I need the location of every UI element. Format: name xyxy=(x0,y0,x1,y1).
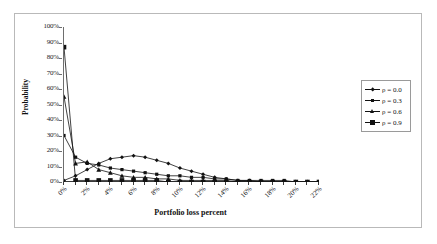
x-tick-label-text: 12% xyxy=(193,185,208,200)
x-tick-mark xyxy=(144,182,145,185)
x-tick-mark xyxy=(98,182,99,185)
y-tick: 0% xyxy=(33,182,61,183)
y-tick-label: 0% xyxy=(33,178,59,185)
legend-symbol xyxy=(371,99,374,102)
data-point-marker xyxy=(64,178,66,182)
x-tick-label-text: 2% xyxy=(80,185,92,197)
legend-label: ρ = 0.3 xyxy=(381,97,402,105)
x-tick-mark xyxy=(248,182,249,185)
y-tick-label: 20% xyxy=(33,147,59,154)
series-line xyxy=(64,136,319,183)
y-tick-label: 10% xyxy=(33,163,59,170)
y-tick: 30% xyxy=(33,136,61,137)
legend-item[interactable]: ρ = 0.0 xyxy=(364,84,408,95)
y-tick-mark xyxy=(59,27,62,28)
y-tick: 20% xyxy=(33,151,61,152)
y-tick: 10% xyxy=(33,167,61,168)
data-point-marker xyxy=(190,169,194,173)
y-tick-label: 70% xyxy=(33,70,59,77)
legend-marker-square-large-icon xyxy=(364,118,381,128)
y-tick-mark xyxy=(59,167,62,168)
y-tick-mark xyxy=(59,151,62,152)
y-tick: 50% xyxy=(33,105,61,106)
data-point-marker xyxy=(108,157,112,161)
y-tick-label: 90% xyxy=(33,39,59,46)
y-axis-ticks: 100%90%80%70%60%50%40%30%20%10%0% xyxy=(33,27,61,182)
legend-item[interactable]: ρ = 0.6 xyxy=(364,106,408,117)
x-axis-title: Portfolio loss percent xyxy=(63,208,318,217)
x-tick-label-text: 14% xyxy=(216,185,231,200)
data-point-marker xyxy=(64,134,66,137)
x-tick-label-text: 4% xyxy=(103,185,115,197)
legend-symbol xyxy=(370,120,375,125)
legend-marker-square-small-icon xyxy=(364,96,381,106)
series-canvas xyxy=(64,27,319,182)
data-point-marker xyxy=(155,158,159,162)
y-tick: 70% xyxy=(33,74,61,75)
x-axis-ticks: 0%2%4%6%8%10%12%14%16%18%20%22% xyxy=(63,183,318,207)
y-tick-label: 50% xyxy=(33,101,59,108)
data-point-marker xyxy=(109,166,112,169)
y-tick: 60% xyxy=(33,89,61,90)
plot-area xyxy=(63,27,318,182)
data-point-marker xyxy=(97,163,100,166)
x-tick-label-text: 6% xyxy=(126,185,138,197)
y-tick-mark xyxy=(59,182,62,183)
data-point-marker xyxy=(120,168,123,171)
y-tick-mark xyxy=(59,58,62,59)
legend-label: ρ = 0.9 xyxy=(381,119,402,127)
y-tick-mark xyxy=(59,105,62,106)
x-tick-mark xyxy=(214,182,215,185)
data-point-marker xyxy=(132,170,135,173)
data-point-marker xyxy=(64,45,66,50)
x-tick-label-text: 8% xyxy=(149,185,161,197)
legend-marker-diamond-icon xyxy=(364,85,381,95)
x-tick-mark xyxy=(191,182,192,185)
x-tick-label-text: 16% xyxy=(239,185,254,200)
data-point-marker xyxy=(143,155,147,159)
legend-symbol xyxy=(370,87,375,92)
x-tick-mark xyxy=(306,182,307,185)
x-tick-mark xyxy=(237,182,238,185)
x-tick-mark xyxy=(121,182,122,185)
legend-symbol xyxy=(370,109,374,113)
legend-item[interactable]: ρ = 0.9 xyxy=(364,117,408,128)
x-tick-label-text: 20% xyxy=(286,185,301,200)
y-tick-label: 40% xyxy=(33,116,59,123)
y-tick-label: 30% xyxy=(33,132,59,139)
y-tick-mark xyxy=(59,74,62,75)
y-tick-label: 60% xyxy=(33,85,59,92)
data-point-marker xyxy=(178,174,181,177)
legend: ρ = 0.0ρ = 0.3ρ = 0.6ρ = 0.9 xyxy=(361,80,411,132)
legend-label: ρ = 0.6 xyxy=(381,108,402,116)
y-tick: 80% xyxy=(33,58,61,59)
series-square-large xyxy=(64,45,319,182)
x-tick-mark xyxy=(283,182,284,185)
data-point-marker xyxy=(155,173,158,176)
data-point-marker xyxy=(144,171,147,174)
data-point-marker xyxy=(85,168,89,172)
y-tick: 90% xyxy=(33,43,61,44)
y-tick: 100% xyxy=(33,27,61,28)
series-square-small xyxy=(64,134,319,182)
legend-label: ρ = 0.0 xyxy=(381,86,402,94)
y-tick-mark xyxy=(59,43,62,44)
chart-figure: 100%90%80%70%60%50%40%30%20%10%0% Probab… xyxy=(0,0,437,244)
y-tick-label: 100% xyxy=(33,23,59,30)
y-tick-mark xyxy=(59,120,62,121)
data-point-marker xyxy=(96,167,101,171)
data-point-marker xyxy=(166,161,170,165)
data-point-marker xyxy=(64,94,66,98)
data-point-marker xyxy=(120,155,124,159)
x-tick-mark xyxy=(75,182,76,185)
data-point-marker xyxy=(132,154,136,158)
series-triangle xyxy=(64,94,319,182)
x-tick-mark xyxy=(167,182,168,185)
data-point-marker xyxy=(201,172,205,176)
legend-marker-triangle-icon xyxy=(364,107,381,117)
data-point-marker xyxy=(178,166,182,170)
y-tick-mark xyxy=(59,89,62,90)
legend-item[interactable]: ρ = 0.3 xyxy=(364,95,408,106)
y-tick-mark xyxy=(59,136,62,137)
y-tick: 40% xyxy=(33,120,61,121)
